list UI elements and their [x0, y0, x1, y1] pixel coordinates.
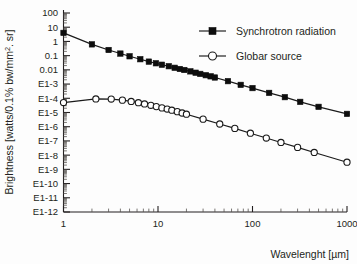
y-tick-label: E1-10 — [33, 178, 58, 189]
filled-square-marker — [316, 104, 321, 109]
chart-figure: 1001010.10.01E1-3E1-4E1-5E1-6E1-7E1-8E1-… — [0, 0, 357, 264]
open-circle-marker — [108, 96, 114, 102]
filled-square-marker — [188, 69, 193, 74]
y-axis-tick-labels: 1001010.10.01E1-3E1-4E1-5E1-6E1-7E1-8E1-… — [33, 7, 58, 217]
open-circle-marker — [278, 139, 284, 145]
filled-square-marker — [238, 82, 243, 87]
open-circle-marker — [311, 149, 317, 155]
filled-square-marker — [298, 99, 303, 104]
y-tick-label: 10 — [47, 22, 58, 33]
y-tick-label: E1-5 — [38, 107, 58, 118]
open-circle-marker — [232, 125, 238, 131]
y-tick-label: 0.01 — [40, 64, 59, 75]
filled-square-marker — [159, 62, 164, 67]
filled-square-marker — [153, 61, 158, 66]
open-circle-marker — [217, 121, 223, 127]
filled-square-marker — [106, 47, 111, 52]
y-axis-label: Brightness [watts/0.1% bw/mm2. sr] — [3, 29, 16, 194]
legend-entry: Globar source — [199, 50, 302, 62]
filled-square-marker — [166, 64, 171, 69]
y-tick-label: E1-11 — [33, 192, 58, 203]
open-circle-marker — [141, 101, 147, 107]
y-tick-label: 100 — [42, 7, 58, 18]
y-tick-label: E1-9 — [38, 164, 58, 175]
filled-square-marker — [182, 67, 187, 72]
series-line — [64, 99, 348, 162]
series-group — [60, 30, 350, 165]
filled-square-marker — [266, 90, 271, 95]
filled-square-marker — [127, 54, 132, 59]
legend-entry: Synchrotron radiation — [199, 25, 336, 37]
x-tick-label: 100 — [245, 218, 261, 229]
filled-square-marker — [118, 51, 123, 56]
y-tick-label: 1 — [53, 36, 58, 47]
open-circle-marker — [119, 97, 125, 103]
y-tick-label: E1-8 — [38, 150, 58, 161]
open-circle-marker — [263, 135, 269, 141]
open-circle-marker — [247, 130, 253, 136]
series-synchrotron-radiation — [61, 30, 350, 116]
plot-axes — [64, 10, 348, 212]
filled-square-marker — [198, 71, 203, 76]
filled-square-marker — [89, 42, 94, 47]
chart-legend: Synchrotron radiationGlobar source — [199, 25, 336, 62]
open-circle-marker — [344, 159, 350, 165]
open-circle-marker — [183, 111, 189, 117]
filled-square-marker — [209, 28, 216, 35]
x-tick-label: 10 — [153, 218, 164, 229]
open-circle-marker — [200, 116, 206, 122]
y-tick-label: E1-12 — [33, 206, 58, 217]
y-axis-label-prefix: Brightness [watts/0.1% bw/mm — [3, 51, 15, 195]
filled-square-marker — [282, 94, 287, 99]
y-tick-label: E1-4 — [38, 93, 58, 104]
filled-square-marker — [225, 78, 230, 83]
open-circle-marker — [93, 96, 99, 102]
filled-square-marker — [212, 75, 217, 80]
y-tick-label: E1-7 — [38, 135, 58, 146]
x-axis-tick-labels: 1101001000 — [61, 218, 357, 229]
y-axis-ticks — [64, 13, 71, 212]
legend-label: Globar source — [236, 50, 302, 62]
open-circle-marker — [128, 98, 134, 104]
x-axis-ticks — [64, 206, 348, 212]
y-axis-label-suffix: . sr] — [3, 29, 15, 47]
y-tick-label: E1-3 — [38, 78, 58, 89]
filled-square-marker — [138, 57, 143, 62]
brightness-vs-wavelength-chart: 1001010.10.01E1-3E1-4E1-5E1-6E1-7E1-8E1-… — [0, 0, 357, 264]
filled-square-marker — [344, 111, 349, 116]
x-tick-label: 1 — [61, 218, 66, 229]
y-tick-label: 0.1 — [45, 50, 58, 61]
filled-square-marker — [250, 85, 255, 90]
legend-label: Synchrotron radiation — [236, 25, 336, 37]
series-globar-source — [60, 96, 350, 165]
x-axis-label: Wavelenght [µm] — [270, 248, 349, 260]
y-tick-label: E1-6 — [38, 121, 58, 132]
filled-square-marker — [61, 30, 66, 35]
open-circle-marker — [294, 144, 300, 150]
open-circle-marker — [135, 100, 141, 106]
filled-square-marker — [146, 59, 151, 64]
open-circle-marker — [60, 99, 66, 105]
open-circle-marker — [209, 52, 217, 60]
filled-square-marker — [172, 65, 177, 70]
x-tick-label: 1000 — [336, 218, 357, 229]
